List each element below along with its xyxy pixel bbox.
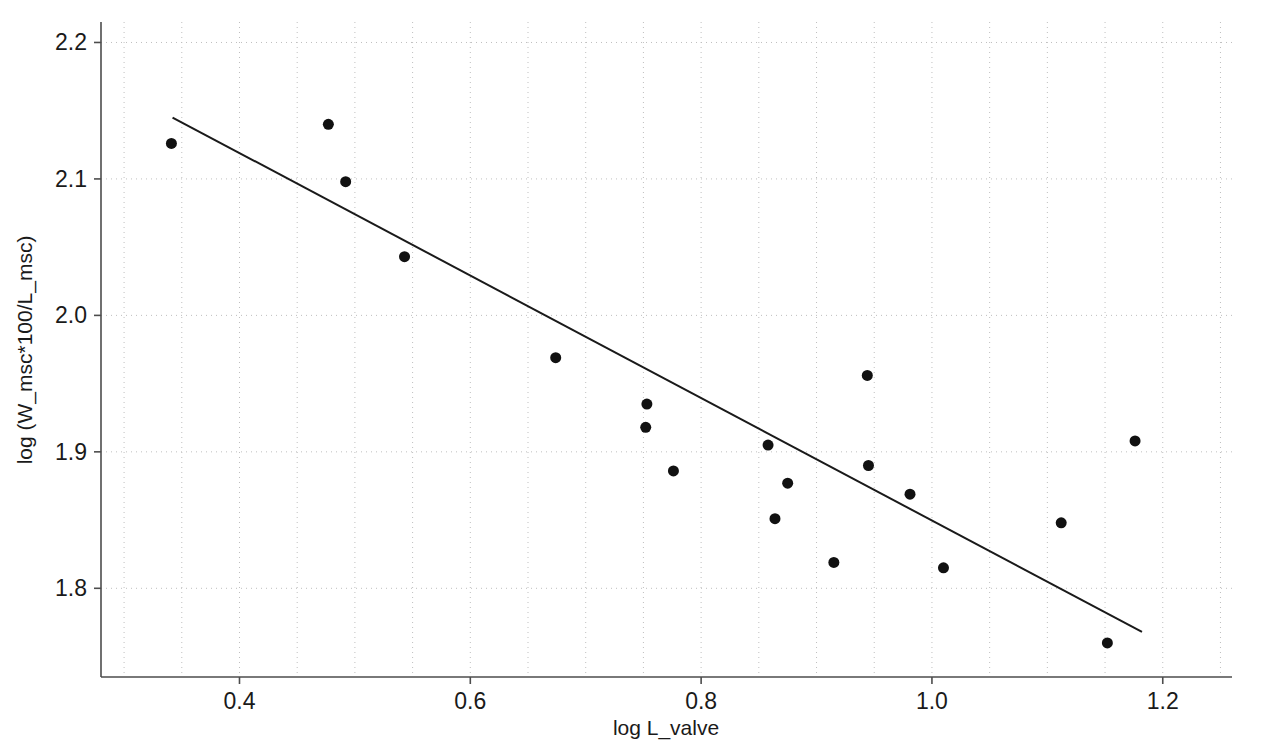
vertical-gridlines	[124, 22, 1220, 677]
y-tick-label: 2.1	[55, 166, 87, 192]
data-point	[862, 370, 873, 381]
data-point	[782, 478, 793, 489]
x-tick-label: 1.2	[1147, 688, 1179, 714]
data-point	[166, 138, 177, 149]
x-tick-label: 0.8	[685, 688, 717, 714]
y-axis-title: log (W_msc*100/L_msc)	[13, 236, 37, 465]
data-point	[640, 422, 651, 433]
data-point	[763, 440, 774, 451]
y-tick-label: 1.8	[55, 575, 87, 601]
data-point	[1056, 517, 1067, 528]
x-tick-label: 1.0	[916, 688, 948, 714]
x-axis-ticks	[239, 677, 1162, 684]
data-point	[668, 465, 679, 476]
x-axis-tick-labels: 0.40.60.81.01.2	[223, 688, 1178, 714]
y-axis-ticks	[94, 42, 101, 588]
data-point	[905, 489, 916, 500]
scatter-plot: 0.40.60.81.01.2 1.81.92.02.12.2 log L_va…	[0, 0, 1274, 756]
data-point	[938, 562, 949, 573]
chart-figure: 0.40.60.81.01.2 1.81.92.02.12.2 log L_va…	[0, 0, 1274, 756]
data-point	[641, 399, 652, 410]
axis-spines	[101, 22, 1232, 677]
x-tick-label: 0.4	[223, 688, 255, 714]
y-tick-label: 2.0	[55, 302, 87, 328]
y-tick-label: 1.9	[55, 439, 87, 465]
data-point	[769, 513, 780, 524]
y-tick-label: 2.2	[55, 29, 87, 55]
scatter-data-points	[166, 119, 1141, 649]
data-point	[828, 557, 839, 568]
data-point	[323, 119, 334, 130]
y-axis-tick-labels: 1.81.92.02.12.2	[55, 29, 87, 601]
data-point	[863, 460, 874, 471]
horizontal-gridlines	[101, 42, 1232, 588]
data-point	[1102, 637, 1113, 648]
x-tick-label: 0.6	[454, 688, 486, 714]
x-axis-title: log L_valve	[613, 716, 719, 740]
data-point	[1130, 435, 1141, 446]
data-point	[550, 352, 561, 363]
data-point	[399, 251, 410, 262]
regression-trendline	[173, 118, 1142, 632]
data-point	[340, 176, 351, 187]
